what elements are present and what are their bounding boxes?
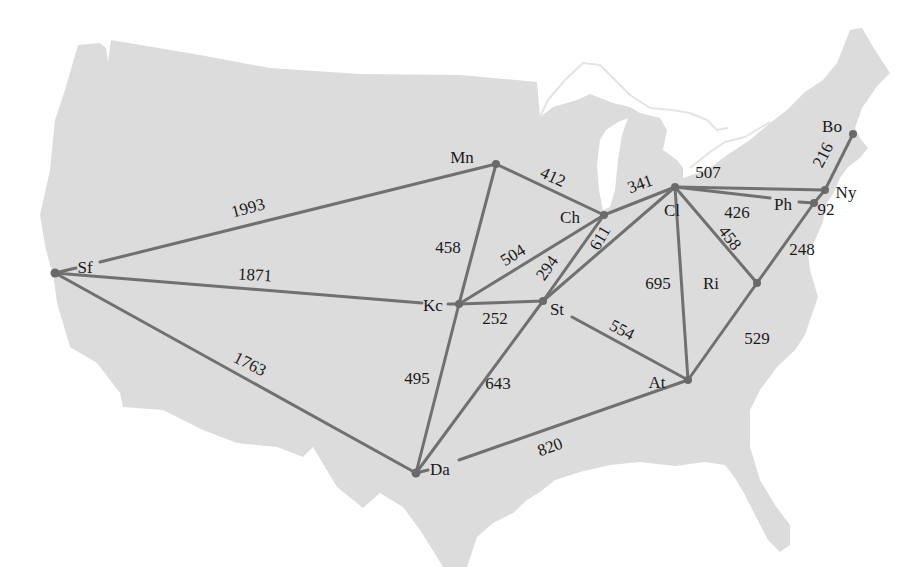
city-label-da: Da	[430, 460, 450, 479]
city-label-at: At	[649, 373, 666, 392]
node-kc	[455, 300, 463, 308]
distance-label-ri-at: 529	[744, 329, 770, 348]
city-label-ny: Ny	[836, 183, 857, 202]
node-da	[412, 469, 421, 478]
distance-label-cl-ny: 507	[695, 163, 721, 182]
node-cl	[671, 183, 679, 191]
city-label-ri: Ri	[703, 274, 719, 293]
city-label-sf: Sf	[77, 258, 92, 277]
city-label-mn: Mn	[450, 148, 474, 167]
node-ny	[821, 186, 829, 194]
node-ch	[600, 211, 608, 219]
us-map-land	[40, 28, 890, 567]
node-st	[539, 297, 547, 305]
node-sf	[51, 269, 60, 278]
city-label-st: St	[550, 300, 564, 319]
distance-label-ph-ri: 248	[789, 240, 815, 259]
city-label-ch: Ch	[560, 208, 580, 227]
distance-label-ph-ny: 92	[818, 200, 835, 219]
distance-label-mn-kc: 458	[435, 238, 461, 257]
distance-label-cl-at: 695	[645, 274, 671, 293]
node-ri	[753, 279, 761, 287]
node-bo	[849, 130, 857, 138]
node-mn	[492, 160, 500, 168]
map-canvas: Sf Mn Ch Cl Ny Ph Bo Ri At Da Kc St 1993…	[0, 0, 910, 567]
distance-label-kc-da: 495	[404, 369, 430, 388]
distance-label-cl-ph: 426	[724, 203, 750, 222]
us-route-map: Sf Mn Ch Cl Ny Ph Bo Ri At Da Kc St 1993…	[0, 0, 910, 567]
city-label-cl: Cl	[664, 201, 680, 220]
city-label-kc: Kc	[423, 296, 443, 315]
city-label-ph: Ph	[774, 195, 792, 214]
distance-label-st-da: 643	[485, 374, 511, 393]
node-at	[684, 376, 692, 384]
city-label-bo: Bo	[822, 117, 842, 136]
distance-label-sf-kc: 1871	[238, 265, 273, 286]
distance-label-kc-st: 252	[482, 309, 508, 328]
